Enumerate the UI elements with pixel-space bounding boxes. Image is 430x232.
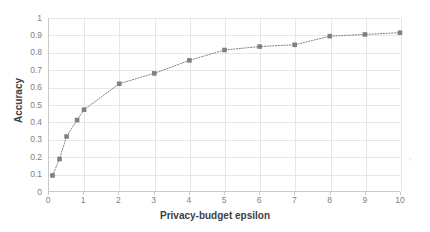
x-axis-tick-label: 4: [177, 196, 201, 205]
data-point-marker: [152, 71, 157, 76]
x-axis-tick-label: 9: [353, 196, 377, 205]
x-axis-tick-label: 10: [388, 196, 412, 205]
y-axis-tick-label: 0: [2, 188, 42, 197]
x-axis-tick-mark: [365, 192, 366, 195]
data-point-marker: [75, 118, 80, 123]
y-axis-tick-label: 0.9: [2, 31, 42, 40]
y-axis-tick-label: 0.1: [2, 170, 42, 179]
data-point-marker: [187, 58, 192, 63]
x-axis-tick-mark: [400, 192, 401, 195]
x-axis-tick-label: 7: [282, 196, 306, 205]
data-point-marker: [50, 173, 55, 178]
plot-area: [48, 18, 400, 192]
x-axis-title: Privacy-budget epsilon: [0, 210, 430, 221]
x-axis-tick-label: 1: [71, 196, 95, 205]
x-axis-tick-label: 3: [142, 196, 166, 205]
x-axis-tick-label: 6: [247, 196, 271, 205]
series-line: [53, 33, 400, 176]
data-point-marker: [64, 134, 69, 139]
accuracy-vs-privacy-budget-chart: 00.10.20.30.40.50.60.70.80.91 0123456789…: [0, 0, 430, 232]
x-axis-tick-mark: [118, 192, 119, 195]
x-axis-tick-mark: [189, 192, 190, 195]
x-axis-tick-mark: [224, 192, 225, 195]
data-point-marker: [222, 48, 227, 53]
data-point-marker: [57, 157, 62, 162]
x-axis-tick-label: 0: [36, 196, 60, 205]
stray-artifact-mark: [409, 158, 412, 161]
data-point-marker: [363, 32, 368, 37]
data-point-marker: [398, 30, 403, 35]
x-axis-tick-mark: [294, 192, 295, 195]
x-axis-tick-mark: [259, 192, 260, 195]
x-axis-tick-label: 2: [106, 196, 130, 205]
y-axis-title: Accuracy: [13, 41, 24, 161]
y-axis-tick-label: 1: [2, 14, 42, 23]
x-axis-tick-mark: [83, 192, 84, 195]
x-axis-tick-mark: [154, 192, 155, 195]
data-point-marker: [328, 34, 333, 39]
data-point-marker: [82, 107, 87, 112]
x-axis-tick-label: 8: [318, 196, 342, 205]
series-markers: [50, 30, 402, 177]
data-point-marker: [117, 81, 122, 86]
data-point-marker: [292, 43, 297, 48]
x-axis-tick-label: 5: [212, 196, 236, 205]
x-axis-tick-mark: [330, 192, 331, 195]
x-axis-tick-mark: [48, 192, 49, 195]
series-accuracy: [49, 18, 400, 191]
gridline-vertical: [401, 18, 402, 191]
data-point-marker: [257, 44, 262, 49]
